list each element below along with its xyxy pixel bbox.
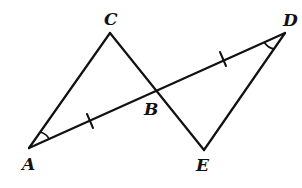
label-c: C: [104, 9, 118, 29]
label-e: E: [195, 155, 210, 175]
geometry-diagram: C D A B E: [0, 0, 302, 188]
segment-ad: [29, 33, 285, 148]
label-b: B: [143, 99, 158, 119]
angle-arc-a: [40, 132, 49, 139]
label-d: D: [282, 10, 298, 30]
label-a: A: [20, 154, 35, 174]
angle-arc-d: [264, 42, 274, 49]
